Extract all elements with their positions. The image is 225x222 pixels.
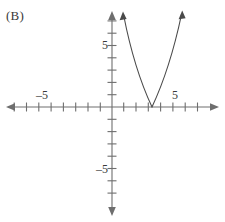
y-axis-down-arrow-icon [108,207,116,216]
y-axis-up-arrow-icon [108,11,116,20]
parabola-left-branch-arrow-icon [120,12,127,21]
coordinate-plane-graph: –5 5 5 –5 [0,0,225,222]
y-axis-label-neg-five: –5 [95,162,108,176]
x-axis-right-arrow-icon [210,103,219,111]
parabola-right-branch-arrow-icon [179,11,186,20]
x-axis-label-neg-five: –5 [35,88,48,102]
y-axis-label-pos-five: 5 [102,38,108,52]
figure-panel: (B) [0,0,225,222]
x-axis-label-pos-five: 5 [172,88,178,102]
